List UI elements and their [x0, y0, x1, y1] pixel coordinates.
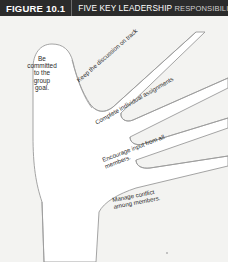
figure-container: FIGURE 10.1 FIVE KEY LEADERSHIP RESPONSI…: [0, 0, 228, 262]
header-divider: [71, 0, 72, 16]
figure-title-tail: RESPONSIBILITIES: [174, 4, 228, 13]
figure-title-lead: FIVE KEY LEADERSHIP: [78, 3, 172, 13]
hand-palm-path: [33, 32, 228, 262]
figure-number-label: FIGURE 10.1: [0, 3, 65, 14]
figure-title: FIVE KEY LEADERSHIP RESPONSIBILITIES: [78, 3, 228, 13]
figure-body: Be committed to the group goal. Keep the…: [0, 16, 228, 262]
figure-header-bar: FIGURE 10.1 FIVE KEY LEADERSHIP RESPONSI…: [0, 0, 228, 16]
hand-outline-illustration: [0, 16, 228, 262]
page-speck: [166, 252, 168, 254]
